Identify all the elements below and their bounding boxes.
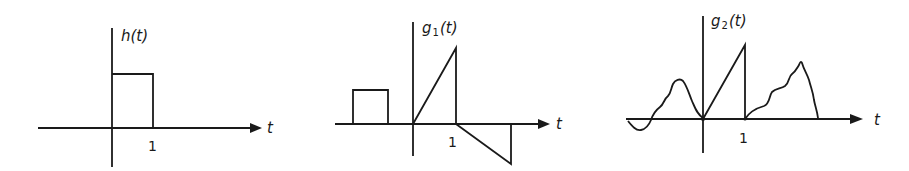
panel-g1-title-base: g [422, 19, 432, 37]
panel-g2-title-arg: (t) [729, 12, 747, 30]
panel-g1-ramp [413, 48, 456, 124]
panel-g2-x-axis-arrow-icon [850, 114, 863, 124]
panel-g1-tick-label: 1 [448, 135, 457, 149]
panel-h-title-arg: (t) [131, 27, 149, 45]
panel-g1-left-pulse [353, 90, 388, 124]
panel-h-x-axis-arrow-icon [250, 123, 262, 133]
panel-g2-title: g2(t) [711, 14, 747, 29]
panel-h-pulse [112, 74, 153, 128]
panel-g2-x-axis-label: t [874, 113, 880, 128]
panel-g1-x-axis-label: t [556, 117, 562, 132]
panel-g2-origin-dot [701, 117, 705, 121]
panel-h-title-base: h [121, 27, 131, 45]
panel-g2-right-wave [745, 62, 818, 119]
panel-g1-title-arg: (t) [440, 19, 458, 37]
panel-g1-x-axis-arrow-icon [538, 119, 550, 129]
panel-g1-title-sub: 1 [433, 27, 439, 38]
panel-g2-tick-label: 1 [739, 131, 748, 145]
panel-g2-ramp [703, 45, 745, 119]
panel-g1-title: g1(t) [422, 21, 458, 36]
panel-h-x-axis-label: t [267, 121, 273, 136]
panel-g1-negative-ramp [456, 124, 511, 164]
panel-h-title: h(t) [121, 29, 148, 44]
panel-h-tick-label: 1 [148, 139, 157, 153]
signal-figure: h(t) t 1 g1(t) t 1 g2(t) t 1 [0, 0, 909, 171]
panel-g2-title-sub: 2 [722, 20, 728, 31]
panel-g2-title-base: g [711, 12, 721, 30]
panel-g2-left-wave [628, 80, 703, 131]
panel-g1-plot [335, 22, 550, 164]
panel-g2-t1-dot [743, 117, 746, 120]
